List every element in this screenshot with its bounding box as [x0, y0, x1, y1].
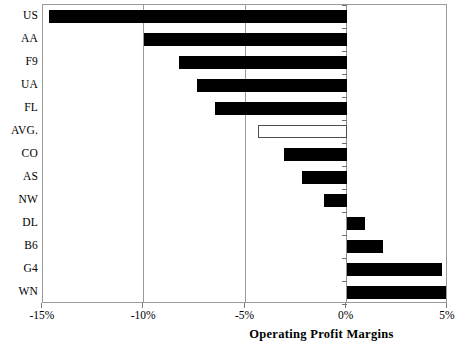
bar-ua — [197, 79, 347, 92]
category-label-dl: DL — [0, 217, 38, 229]
category-label-aa: AA — [0, 33, 38, 45]
x-tick — [446, 303, 447, 308]
bar-as — [302, 171, 347, 184]
x-tick-label: -5% — [235, 309, 254, 321]
operating-profit-margins-chart: USAAF9UAFLAVG.COASNWDLB6G4WN -15%-10%-5%… — [0, 0, 455, 345]
category-label-ua: UA — [0, 79, 38, 91]
bar-row — [43, 189, 446, 212]
bar-row — [43, 74, 446, 97]
zero-axis-tick — [342, 235, 347, 236]
bar-avg — [258, 125, 347, 138]
zero-axis-tick — [342, 281, 347, 282]
x-axis-title: Operating Profit Margins — [249, 327, 393, 342]
bar-f9 — [179, 56, 347, 69]
x-tick-label: -15% — [30, 309, 55, 321]
bar-row — [43, 5, 446, 28]
category-label-nw: NW — [0, 194, 38, 206]
bar-g4 — [347, 263, 442, 276]
bar-row — [43, 28, 446, 51]
zero-axis-tick — [342, 212, 347, 213]
bar-row — [43, 51, 446, 74]
plot-area — [42, 4, 447, 303]
bar-row — [43, 281, 446, 304]
bar-row — [43, 235, 446, 258]
category-label-as: AS — [0, 171, 38, 183]
bar-nw — [324, 194, 346, 207]
x-tick — [142, 303, 143, 308]
bar-b6 — [347, 240, 383, 253]
category-label-co: CO — [0, 148, 38, 160]
bar-row — [43, 120, 446, 143]
zero-axis-tick — [342, 97, 347, 98]
category-label-avg: AVG. — [0, 125, 38, 137]
zero-axis-tick — [342, 258, 347, 259]
category-label-wn: WN — [0, 286, 38, 298]
bar-co — [284, 148, 347, 161]
zero-axis-tick — [342, 51, 347, 52]
bar-row — [43, 143, 446, 166]
zero-axis-tick — [342, 74, 347, 75]
category-label-fl: FL — [0, 102, 38, 114]
bar-fl — [215, 102, 347, 115]
bar-row — [43, 166, 446, 189]
category-label-f9: F9 — [0, 56, 38, 68]
bar-row — [43, 212, 446, 235]
bar-row — [43, 258, 446, 281]
zero-axis-tick — [342, 120, 347, 121]
category-label-us: US — [0, 10, 38, 22]
bar-us — [49, 10, 347, 23]
bar-dl — [347, 217, 365, 230]
x-tick-label: -10% — [131, 309, 156, 321]
x-tick — [41, 303, 42, 308]
category-label-g4: G4 — [0, 263, 38, 275]
x-tick-label: 5% — [439, 309, 454, 321]
category-axis-labels: USAAF9UAFLAVG.COASNWDLB6G4WN — [0, 4, 38, 303]
bar-row — [43, 97, 446, 120]
zero-axis-tick — [342, 5, 347, 6]
zero-axis-tick — [342, 28, 347, 29]
x-tick — [345, 303, 346, 308]
zero-axis-tick — [342, 143, 347, 144]
category-label-b6: B6 — [0, 240, 38, 252]
x-tick — [244, 303, 245, 308]
zero-axis-tick — [342, 189, 347, 190]
zero-axis-tick — [342, 166, 347, 167]
bar-wn — [347, 286, 446, 299]
bar-aa — [144, 33, 347, 46]
x-tick-label: 0% — [338, 309, 353, 321]
